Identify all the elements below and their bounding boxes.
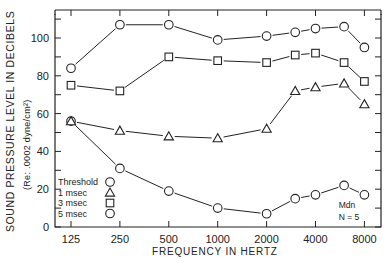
series-line (321, 55, 338, 61)
circle-marker-icon (116, 20, 125, 29)
series-1-msec (66, 79, 369, 142)
legend-label: 5 msec (58, 209, 88, 219)
square-marker-icon (116, 87, 124, 95)
note-n: N = 5 (339, 212, 360, 222)
legend-label: Threshold (58, 177, 98, 187)
triangle-marker-icon (262, 124, 271, 132)
circle-marker-icon (67, 64, 76, 73)
x-tick-label: 4000 (303, 233, 327, 245)
legend-circle-icon (106, 209, 115, 218)
series-3-msec (67, 49, 368, 94)
legend-label: 3 msec (58, 198, 88, 208)
series-line (224, 61, 261, 62)
chart-plot: 0204060801001252505001000200040008000 Th… (0, 0, 388, 263)
series-line (75, 125, 115, 164)
square-marker-icon (67, 81, 75, 89)
series-line (321, 187, 338, 193)
series-line (350, 188, 359, 192)
circle-marker-icon (262, 209, 271, 218)
circle-marker-icon (291, 194, 300, 203)
series-line (75, 29, 115, 64)
legend-triangle-icon (105, 188, 114, 196)
series-line (348, 88, 360, 100)
axis-lines (55, 14, 381, 227)
series-line (272, 57, 289, 61)
y-tick-label: 60 (37, 108, 49, 120)
series-line (224, 209, 261, 213)
series-line (175, 27, 212, 39)
x-tick-label: 1000 (205, 233, 229, 245)
square-marker-icon (340, 59, 348, 67)
circle-marker-icon (165, 20, 174, 29)
y-tick-label: 100 (31, 32, 49, 44)
triangle-marker-icon (115, 126, 124, 134)
series-line (77, 122, 114, 129)
circle-marker-icon (360, 191, 369, 200)
circle-marker-icon (340, 181, 349, 190)
series-line (273, 33, 290, 35)
series-line (125, 60, 164, 87)
series-line (348, 31, 360, 43)
square-marker-icon (312, 49, 320, 57)
triangle-marker-icon (291, 86, 300, 94)
series-line (321, 27, 338, 28)
square-marker-icon (214, 57, 222, 65)
square-marker-icon (263, 59, 271, 67)
triangle-marker-icon (340, 79, 349, 87)
series-line (126, 131, 163, 135)
series-line (224, 37, 261, 40)
circle-marker-icon (213, 36, 222, 45)
y-tick-label: 20 (37, 183, 49, 195)
legend-label: 1 msec (58, 188, 88, 198)
series-line (301, 88, 309, 90)
series-line (301, 30, 309, 32)
series-line (77, 86, 114, 90)
series-line (272, 201, 290, 211)
triangle-marker-icon (360, 100, 369, 108)
square-marker-icon (361, 78, 369, 86)
series-line (175, 137, 212, 138)
series-line (174, 193, 212, 206)
x-tick-label: 250 (111, 233, 129, 245)
y-tick-label: 0 (43, 221, 49, 233)
circle-marker-icon (262, 32, 271, 41)
x-tick-label: 8000 (352, 233, 376, 245)
legend-circle-icon (106, 178, 115, 187)
data-series (66, 20, 369, 218)
triangle-marker-icon (213, 134, 222, 142)
square-marker-icon (291, 51, 299, 59)
circle-marker-icon (116, 164, 125, 173)
circle-marker-icon (291, 28, 300, 37)
circle-marker-icon (340, 22, 349, 31)
triangle-marker-icon (164, 132, 173, 140)
series-line (270, 96, 291, 124)
y-tick-label: 80 (37, 70, 49, 82)
circle-marker-icon (360, 43, 369, 52)
x-tick-label: 500 (160, 233, 178, 245)
x-tick-label: 125 (62, 233, 80, 245)
circle-marker-icon (311, 191, 320, 200)
legend-square-icon (106, 199, 114, 207)
series-line (321, 84, 338, 86)
square-marker-icon (165, 53, 173, 61)
series-line (301, 54, 309, 55)
y-tick-label: 40 (37, 145, 49, 157)
series-line (125, 171, 163, 189)
x-tick-label: 2000 (254, 233, 278, 245)
circle-marker-icon (165, 187, 174, 196)
legend: Threshold1 msec3 msec5 msec (58, 177, 115, 219)
triangle-marker-icon (311, 83, 320, 91)
series-line (348, 67, 360, 78)
note-mdn: Mdn (339, 200, 356, 210)
series-line (175, 57, 212, 60)
series-line (301, 196, 309, 198)
circle-marker-icon (213, 204, 222, 213)
annotation-mdn: MdnN = 5 (339, 200, 360, 222)
series-line (224, 130, 261, 137)
circle-marker-icon (311, 24, 320, 33)
